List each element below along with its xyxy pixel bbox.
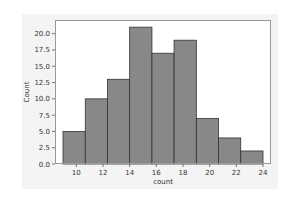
x-axis-ticks: 1012141618202224 (72, 164, 268, 177)
y-tick-label: 7.5 (39, 112, 50, 120)
y-tick-label: 0.0 (39, 161, 50, 169)
histogram-bar (130, 27, 152, 164)
histogram-bar (107, 79, 129, 164)
y-tick-label: 2.5 (39, 144, 50, 152)
histogram-bar (219, 138, 241, 164)
x-tick-label: 24 (259, 169, 268, 177)
y-axis-label: Count (23, 81, 31, 102)
x-tick-label: 16 (152, 169, 161, 177)
x-axis-label: count (153, 178, 173, 186)
histogram-bar (63, 131, 85, 164)
x-tick-label: 10 (72, 169, 81, 177)
histogram-bar (85, 99, 107, 164)
y-tick-label: 10.0 (34, 95, 50, 103)
x-tick-label: 12 (99, 169, 108, 177)
x-tick-label: 22 (232, 169, 241, 177)
histogram-bar (152, 53, 174, 164)
histogram-bar (196, 118, 218, 164)
y-tick-label: 17.5 (34, 46, 50, 54)
y-tick-label: 15.0 (34, 63, 50, 71)
y-tick-label: 12.5 (34, 79, 50, 87)
x-tick-label: 20 (205, 169, 214, 177)
x-tick-label: 18 (179, 169, 188, 177)
histogram-chart: 1012141618202224 0.02.55.07.510.012.515.… (0, 0, 287, 198)
histogram-bar (241, 151, 263, 164)
y-tick-label: 5.0 (39, 128, 50, 136)
y-axis-ticks: 0.02.55.07.510.012.515.017.520.0 (34, 30, 55, 168)
x-tick-label: 14 (125, 169, 134, 177)
y-tick-label: 20.0 (34, 30, 50, 38)
histogram-bar (174, 40, 196, 164)
